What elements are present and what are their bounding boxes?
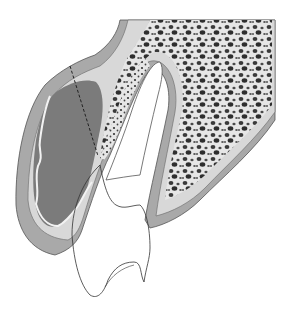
root-inner-line <box>105 265 134 287</box>
bone-cross-section-diagram <box>0 0 292 310</box>
diagram-canvas <box>0 0 292 310</box>
